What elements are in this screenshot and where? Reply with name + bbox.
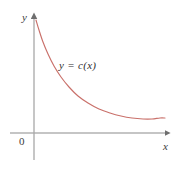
x-axis-label: x — [163, 141, 168, 152]
cost-function-curve — [36, 20, 165, 119]
y-axis-label: y — [22, 12, 27, 23]
plot-canvas — [0, 0, 178, 169]
origin-label: 0 — [19, 136, 25, 147]
curve-equation-label: y = c(x) — [59, 60, 96, 71]
function-graph-figure: y x 0 y = c(x) — [0, 0, 178, 169]
